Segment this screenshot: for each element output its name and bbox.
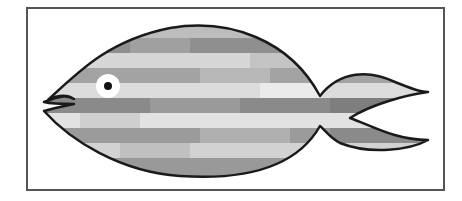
stripe-patch — [200, 68, 270, 83]
fish-illustration — [0, 0, 462, 201]
stripe-patch — [260, 83, 320, 98]
stripe — [30, 25, 440, 38]
stripe-patch — [150, 98, 240, 113]
stripe — [30, 53, 440, 68]
stripe-patch — [330, 128, 420, 143]
stripe — [30, 83, 440, 98]
stripe-patch — [80, 113, 140, 128]
fish-stripes — [30, 25, 440, 178]
eye-pupil-icon — [104, 82, 112, 90]
stripe-patch — [250, 53, 330, 68]
stripe-patch — [200, 128, 290, 143]
stripe-patch — [120, 143, 190, 158]
fish-artwork — [0, 0, 462, 201]
stripe-patch — [130, 38, 190, 53]
stripe — [30, 38, 440, 53]
